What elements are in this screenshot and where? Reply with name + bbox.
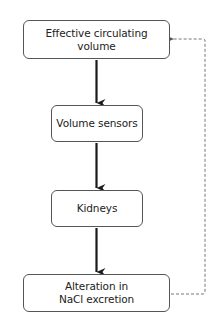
feedback-dashed-arrow <box>171 39 205 294</box>
node-label: Kidneys <box>77 202 118 215</box>
node-alteration-nacl-excretion: Alteration in NaCl excretion <box>23 274 170 312</box>
node-label: Volume sensors <box>56 117 137 130</box>
node-label: Effective circulating volume <box>45 27 147 53</box>
node-label: Alteration in NaCl excretion <box>59 280 134 306</box>
node-effective-circulating-volume: Effective circulating volume <box>23 20 170 59</box>
node-volume-sensors: Volume sensors <box>51 105 143 142</box>
node-kidneys: Kidneys <box>51 190 143 227</box>
